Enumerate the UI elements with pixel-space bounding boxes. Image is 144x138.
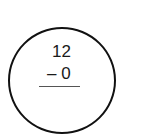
minuend: 12 [52,43,71,60]
answer-line [39,86,80,87]
subtrahend: – 0 [47,65,71,82]
